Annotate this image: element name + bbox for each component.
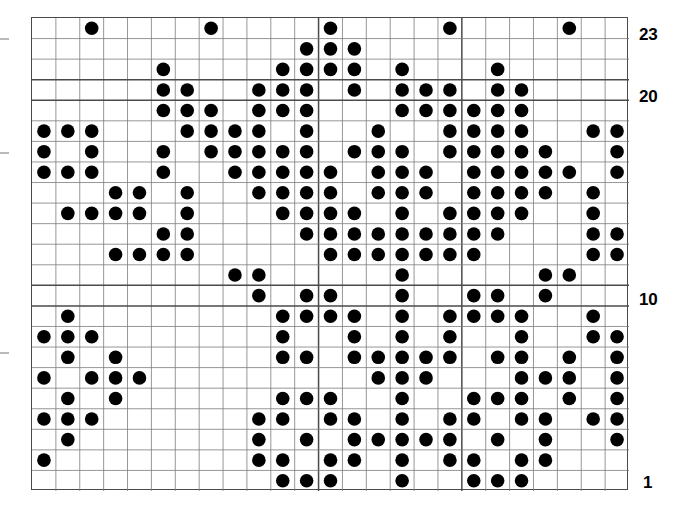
grid-dot (276, 63, 290, 77)
grid-dot (348, 453, 362, 467)
grid-dot (85, 124, 99, 138)
grid-dot (515, 309, 529, 323)
grid-dot (515, 165, 529, 179)
grid-dot (443, 412, 457, 426)
grid-dot (133, 248, 147, 262)
grid-dot (85, 165, 99, 179)
grid-dot (37, 165, 51, 179)
grid-dot (276, 412, 290, 426)
grid-dot (109, 392, 123, 406)
grid-dot (133, 371, 147, 385)
grid-dot (515, 124, 529, 138)
grid-dot (539, 412, 553, 426)
grid-dot (324, 227, 338, 241)
grid-dot (419, 227, 433, 241)
grid-dot (300, 289, 314, 303)
grid-dot (324, 186, 338, 200)
grid-dot (37, 330, 51, 344)
grid-dot (37, 145, 51, 159)
grid-dot (324, 453, 338, 467)
grid-dot (515, 104, 529, 118)
grid-dot (515, 330, 529, 344)
grid-dot (371, 124, 385, 138)
grid-dot (515, 474, 529, 488)
grid-dot (586, 124, 600, 138)
grid-dot (467, 165, 481, 179)
grid-dot (371, 248, 385, 262)
grid-dot (395, 309, 409, 323)
grid-dot (300, 186, 314, 200)
grid-dot (491, 227, 505, 241)
grid-dot (300, 165, 314, 179)
grid-dot (276, 186, 290, 200)
grid-dot (324, 392, 338, 406)
grid-dot (395, 392, 409, 406)
grid-dot (395, 289, 409, 303)
grid-dot (395, 433, 409, 447)
grid-dot (610, 227, 624, 241)
grid-dot (563, 21, 577, 35)
grid-dot (157, 63, 171, 77)
grid-dot (491, 165, 505, 179)
grid-dot (37, 453, 51, 467)
grid-dot (515, 145, 529, 159)
grid-dot (252, 433, 266, 447)
grid-dot (300, 392, 314, 406)
grid-dot (491, 309, 505, 323)
grid-dot (157, 83, 171, 97)
grid-dot (610, 433, 624, 447)
grid-dot (371, 145, 385, 159)
grid-dot (515, 186, 529, 200)
dot-matrix-grid (31, 17, 628, 490)
grid-dot (419, 104, 433, 118)
grid-dot (61, 330, 75, 344)
grid-dot (371, 227, 385, 241)
grid-dot (563, 351, 577, 365)
grid-dot (443, 83, 457, 97)
grid-dot (276, 474, 290, 488)
grid-dot (610, 165, 624, 179)
page-margin-mark-middle (0, 152, 9, 154)
grid-dot (539, 165, 553, 179)
grid-dot (586, 248, 600, 262)
chart-page: 23 20 10 1 (0, 0, 677, 513)
grid-dot (157, 145, 171, 159)
grid-dot (395, 83, 409, 97)
y-axis-label-23: 23 (639, 26, 657, 43)
grid-dot (85, 330, 99, 344)
grid-dot (109, 186, 123, 200)
grid-dot (85, 145, 99, 159)
grid-dot (252, 124, 266, 138)
grid-dot (491, 474, 505, 488)
grid-dot (563, 268, 577, 282)
grid-dot (563, 371, 577, 385)
grid-dot (348, 309, 362, 323)
grid-dot (443, 309, 457, 323)
grid-dot (204, 124, 218, 138)
grid-dot (324, 309, 338, 323)
grid-dot (157, 248, 171, 262)
grid-dot (491, 351, 505, 365)
grid-dot (395, 104, 409, 118)
grid-dot (395, 207, 409, 221)
grid-dot (300, 309, 314, 323)
grid-dot (515, 83, 529, 97)
grid-dot (419, 165, 433, 179)
grid-dot (252, 412, 266, 426)
grid-dot (395, 371, 409, 385)
grid-dot (324, 412, 338, 426)
grid-dot (443, 351, 457, 365)
grid-dot (348, 412, 362, 426)
grid-dot (109, 248, 123, 262)
grid-dot (395, 145, 409, 159)
grid-dot (228, 268, 242, 282)
grid-dot (348, 145, 362, 159)
grid-dot (467, 453, 481, 467)
grid-dot (204, 21, 218, 35)
grid-dot (395, 165, 409, 179)
grid-dot (300, 207, 314, 221)
grid-dot (85, 21, 99, 35)
grid-dot (467, 124, 481, 138)
grid-dot (300, 227, 314, 241)
grid-dot (348, 330, 362, 344)
